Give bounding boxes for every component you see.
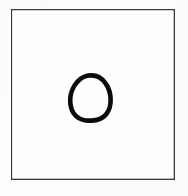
- rounded-triangle-loop-path: [70, 75, 110, 120]
- figure-svg: [0, 0, 188, 196]
- rounded-triangle-loop-inner-path: [73, 80, 106, 117]
- scanned-sheet: Hand-drawn closed loop figure: [0, 0, 188, 196]
- figure-layer: [0, 0, 188, 196]
